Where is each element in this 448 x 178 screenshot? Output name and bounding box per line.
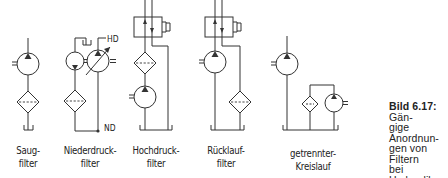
- label-hochdruckfilter: Hochdruck- filter: [131, 144, 180, 170]
- circuit-hochdruckfilter: [129, 0, 172, 130]
- label-saugfilter: Saug- filter: [12, 144, 45, 170]
- circuit-getrennter-kreislauf: [271, 36, 348, 130]
- figure-caption: Bild 6.17: Gän- gige Anordnun- gen von F…: [389, 101, 448, 178]
- low-pressure-tag: ND: [104, 122, 116, 133]
- circuit-saugfilter: [12, 38, 39, 130]
- label-niederdruckfilter: Niederdruck- filter: [61, 144, 118, 170]
- label-getrennter-kreislauf: getrennter- Kreislauf: [286, 147, 340, 173]
- valve-icon: [134, 17, 162, 37]
- circuit-ruecklauffilter: [199, 0, 251, 130]
- label-ruecklauffilter: Rücklauf- filter: [203, 144, 249, 170]
- circuit-niederdruckfilter: [64, 38, 116, 133]
- filter-icon: [17, 91, 39, 113]
- high-pressure-tag: HD: [107, 33, 119, 44]
